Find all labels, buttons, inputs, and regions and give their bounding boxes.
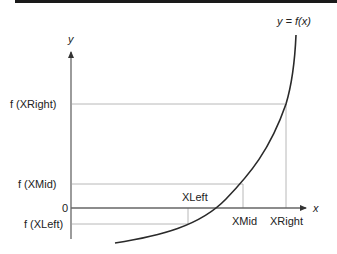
bisection-diagram: y = f(x) y x 0 f (XRight) f (XMid) f (XL… <box>0 0 337 254</box>
function-curve <box>115 35 296 243</box>
x-axis-label: x <box>312 202 319 214</box>
y-axis-label: y <box>67 33 75 45</box>
origin-label: 0 <box>62 202 68 214</box>
x-tick-xleft: XLeft <box>182 191 208 203</box>
y-tick-f-xright: f (XRight) <box>10 98 56 110</box>
guide-lines <box>72 104 286 224</box>
y-tick-f-xleft: f (XLeft) <box>24 218 63 230</box>
x-tick-xright: XRight <box>270 215 303 227</box>
x-tick-xmid: XMid <box>232 215 257 227</box>
curve-label: y = f(x) <box>276 15 311 27</box>
y-tick-f-xmid: f (XMid) <box>18 178 57 190</box>
